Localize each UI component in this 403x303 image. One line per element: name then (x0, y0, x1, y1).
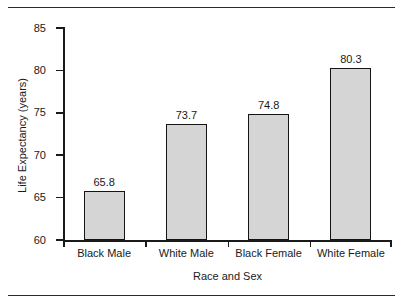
category-label-black-female: Black Female (228, 247, 310, 259)
bar-value-label-black-female: 74.8 (239, 100, 299, 111)
y-tick-85 (56, 27, 64, 29)
x-tick-0 (63, 240, 65, 247)
x-axis-title: Race and Sex (63, 270, 392, 282)
x-tick-4 (390, 240, 392, 247)
x-tick-2 (228, 240, 230, 247)
x-tick-1 (145, 240, 147, 247)
category-label-white-male: White Male (145, 247, 227, 259)
bar-black-male (84, 191, 125, 240)
y-tick-65 (56, 197, 64, 199)
x-tick-3 (310, 240, 312, 247)
y-axis-title: Life Expectancy (years) (17, 51, 28, 221)
category-label-white-female: White Female (310, 247, 392, 259)
y-axis-line (63, 27, 65, 241)
bar-black-female (248, 114, 289, 240)
y-tick-70 (56, 154, 64, 156)
bar-value-label-black-male: 65.8 (74, 177, 134, 188)
y-tick-80 (56, 70, 64, 72)
y-tick-label-60: 60 (0, 235, 46, 246)
y-tick-label-85: 85 (0, 23, 46, 34)
category-label-black-male: Black Male (63, 247, 145, 259)
bar-white-female (330, 68, 371, 240)
bar-value-label-white-male: 73.7 (156, 110, 216, 121)
bar-white-male (166, 124, 207, 240)
figure: 606570758085 65.873.774.880.3 Black Male… (0, 0, 403, 303)
y-tick-75 (56, 112, 64, 114)
bar-chart-plot: 606570758085 65.873.774.880.3 Black Male… (0, 0, 403, 303)
bar-value-label-white-female: 80.3 (321, 54, 381, 65)
